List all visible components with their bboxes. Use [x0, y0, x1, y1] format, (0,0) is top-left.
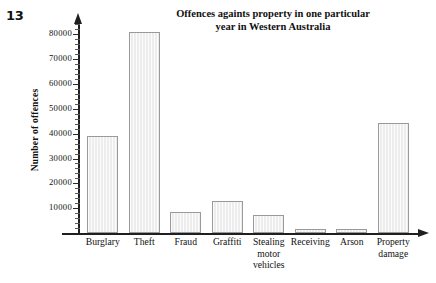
y-tick-label: 50000	[49, 103, 72, 113]
y-tick-major	[73, 208, 80, 209]
y-tick-major	[73, 34, 80, 35]
x-axis-line	[62, 233, 419, 235]
bar-stealing-motor-vehicles	[253, 215, 284, 233]
y-tick-major	[73, 159, 80, 160]
y-tick-minor	[75, 193, 80, 194]
plot-area: Number of offences 100002000030000400005…	[0, 0, 436, 283]
x-category-label: Property damage	[367, 236, 421, 259]
y-tick-label: 20000	[49, 177, 72, 187]
y-tick-minor	[75, 104, 80, 105]
y-tick-minor	[75, 124, 80, 125]
y-tick-minor	[75, 163, 80, 164]
y-tick-label: 10000	[49, 202, 72, 212]
y-tick-label: 40000	[49, 128, 72, 138]
y-tick-minor	[75, 64, 80, 65]
y-tick-minor	[75, 94, 80, 95]
bar-receiving	[295, 229, 326, 233]
y-tick-major	[73, 59, 80, 60]
y-tick-minor	[75, 178, 80, 179]
y-tick-label: 80000	[49, 28, 72, 38]
y-tick-label: 60000	[49, 78, 72, 88]
y-tick-minor	[75, 218, 80, 219]
y-tick-minor	[75, 49, 80, 50]
y-tick-minor	[75, 188, 80, 189]
bar-burglary	[87, 136, 118, 233]
y-tick-label: 70000	[49, 53, 72, 63]
bar-arson	[336, 229, 367, 233]
y-tick-minor	[75, 29, 80, 30]
y-tick-major	[73, 84, 80, 85]
y-axis-label: Number of offences	[30, 65, 40, 195]
y-tick-minor	[75, 74, 80, 75]
y-tick-minor	[75, 139, 80, 140]
y-tick-minor	[75, 129, 80, 130]
bar-property-damage	[378, 123, 409, 233]
y-tick-minor	[75, 114, 80, 115]
y-tick-minor	[75, 154, 80, 155]
bar-graffiti	[212, 201, 243, 233]
y-tick-minor	[75, 213, 80, 214]
y-axis-arrowhead-icon	[74, 13, 82, 24]
y-tick-minor	[75, 223, 80, 224]
y-tick-major	[73, 134, 80, 135]
y-tick-minor	[75, 203, 80, 204]
bar-theft	[129, 32, 160, 233]
y-tick-major	[73, 183, 80, 184]
y-tick-minor	[75, 79, 80, 80]
y-tick-minor	[75, 44, 80, 45]
y-tick-minor	[75, 99, 80, 100]
y-tick-minor	[75, 119, 80, 120]
bar-chart-figure: 13 Offences againts property in one part…	[0, 0, 436, 283]
y-tick-minor	[75, 24, 80, 25]
y-tick-minor	[75, 149, 80, 150]
y-tick-minor	[75, 89, 80, 90]
bar-fraud	[170, 212, 201, 233]
y-tick-label: 30000	[49, 153, 72, 163]
y-tick-major	[73, 109, 80, 110]
y-tick-minor	[75, 168, 80, 169]
y-tick-minor	[75, 228, 80, 229]
y-tick-minor	[75, 144, 80, 145]
y-tick-minor	[75, 54, 80, 55]
y-tick-minor	[75, 173, 80, 174]
y-tick-minor	[75, 69, 80, 70]
y-tick-minor	[75, 39, 80, 40]
y-tick-minor	[75, 198, 80, 199]
